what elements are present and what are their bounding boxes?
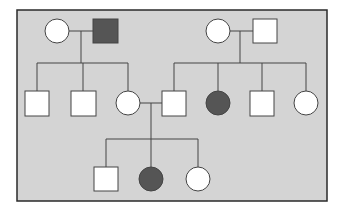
individual-ii4-male-unaffected	[162, 91, 186, 116]
individual-iii2-female-affected	[139, 167, 163, 191]
individual-i2-male-affected	[93, 19, 118, 43]
individual-ii6-male-unaffected	[250, 91, 274, 116]
individual-iii1-male-unaffected	[94, 167, 118, 191]
individual-ii7-female-unaffected	[294, 91, 318, 115]
individual-ii3-female-unaffected	[116, 91, 140, 115]
individual-iii3-female-unaffected	[186, 167, 210, 191]
individual-ii1-male-unaffected	[25, 91, 49, 116]
individual-ii5-female-affected	[206, 91, 230, 115]
individual-i3-female-unaffected	[206, 19, 230, 43]
individual-i4-male-unaffected	[253, 19, 277, 43]
individual-ii2-male-unaffected	[71, 91, 96, 116]
pedigree-chart	[0, 0, 342, 214]
individual-i1-female-unaffected	[45, 19, 69, 43]
